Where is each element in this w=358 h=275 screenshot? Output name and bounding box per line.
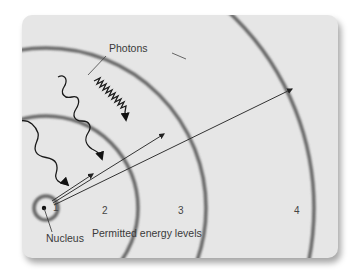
diagram-stage: Photons Nucleus Permitted energy levels …	[0, 0, 358, 275]
orbit-level-4	[22, 15, 314, 258]
bohr-model-figure	[22, 15, 338, 258]
photons-leader-lines	[88, 53, 186, 75]
orbit-rings	[22, 15, 314, 258]
arrow-to-level-2	[52, 174, 93, 201]
photon-1	[22, 121, 68, 185]
transition-arrows	[52, 89, 292, 205]
nucleus-label: Nucleus	[46, 233, 84, 244]
level-3-label: 3	[178, 206, 184, 216]
photons-label: Photons	[108, 43, 149, 54]
photons	[22, 76, 126, 185]
permitted-energy-levels-label: Permitted energy levels	[92, 228, 202, 239]
level-4-label: 4	[294, 206, 300, 216]
level-2-label: 2	[102, 206, 108, 216]
level-1-label: 1	[53, 203, 59, 213]
photon-3	[94, 78, 126, 120]
arrow-to-level-3	[53, 134, 164, 203]
bohr-model-panel: Photons Nucleus Permitted energy levels …	[22, 15, 338, 258]
